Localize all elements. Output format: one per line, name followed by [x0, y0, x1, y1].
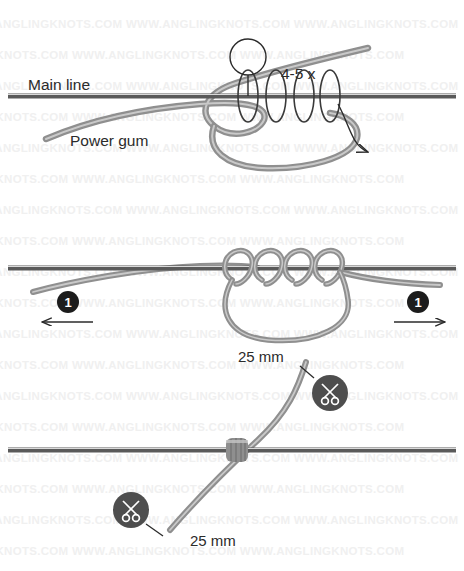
watermark-row: WWW.ANGLINGKNOTS.COM WWW.ANGLINGKNOTS.CO…: [0, 514, 458, 526]
finished-knot: [226, 438, 248, 462]
trim-length-bottom-label: 25 mm: [190, 532, 236, 549]
trim-length-top-label: 25 mm: [238, 348, 284, 365]
watermark-row: WWW.ANGLINGKNOTS.COM WWW.ANGLINGKNOTS.CO…: [0, 235, 404, 247]
step-badge-left-label: 1: [64, 295, 71, 310]
watermark-row: WWW.ANGLINGKNOTS.COM WWW.ANGLINGKNOTS.CO…: [0, 142, 458, 154]
wrap-count-label: 4-5 x: [281, 65, 316, 82]
main-line-label: Main line: [28, 76, 90, 93]
main-line-1: [8, 95, 456, 97]
watermark-row: WWW.ANGLINGKNOTS.COM WWW.ANGLINGKNOTS.CO…: [0, 390, 458, 402]
watermark-row: WWW.ANGLINGKNOTS.COM WWW.ANGLINGKNOTS.CO…: [0, 18, 458, 30]
power-gum-label: Power gum: [70, 132, 148, 149]
step-badge-left: 1: [57, 291, 79, 313]
watermark-row: WWW.ANGLINGKNOTS.COM WWW.ANGLINGKNOTS.CO…: [0, 173, 404, 185]
watermark-row: WWW.ANGLINGKNOTS.COM WWW.ANGLINGKNOTS.CO…: [0, 359, 404, 371]
knot-diagram: WWW.ANGLINGKNOTS.COM WWW.ANGLINGKNOTS.CO…: [0, 0, 464, 571]
watermark-row: WWW.ANGLINGKNOTS.COM WWW.ANGLINGKNOTS.CO…: [0, 421, 404, 433]
knot-illustration: WWW.ANGLINGKNOTS.COM WWW.ANGLINGKNOTS.CO…: [0, 0, 464, 571]
step-badge-right: 1: [407, 291, 429, 313]
step-badge-right-label: 1: [414, 295, 421, 310]
watermark-row: WWW.ANGLINGKNOTS.COM WWW.ANGLINGKNOTS.CO…: [0, 204, 458, 216]
main-line-2: [8, 267, 456, 269]
watermark-row: WWW.ANGLINGKNOTS.COM WWW.ANGLINGKNOTS.CO…: [0, 328, 458, 340]
